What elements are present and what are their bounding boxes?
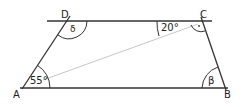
trapezoid-diagram: 55° δ 20° β A B C D: [0, 0, 243, 107]
angle-label-d: δ: [70, 24, 76, 34]
vertex-label-b: B: [224, 89, 231, 100]
vertex-label-a: A: [13, 89, 20, 100]
angle-label-a: 55°: [30, 75, 48, 86]
angle-arc-c-20: [157, 21, 159, 36]
angle-label-b: β: [208, 75, 214, 86]
right-angle-dot: [198, 25, 200, 27]
angle-label-c-20: 20°: [161, 22, 179, 33]
vertex-label-d: D: [61, 9, 69, 20]
vertex-label-c: C: [200, 9, 207, 20]
